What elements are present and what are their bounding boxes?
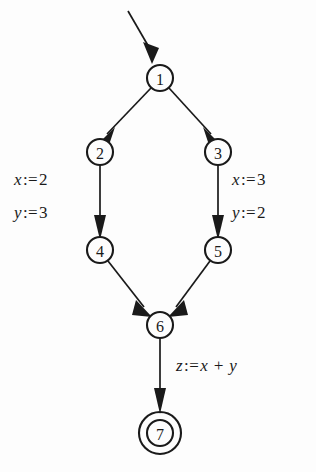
node-3-label: 3 [214, 145, 222, 162]
edge-3-to-5 [212, 165, 224, 240]
edge-entry-to-1 [128, 11, 159, 64]
node-7-label: 7 [156, 426, 164, 443]
assign-operator: := [240, 203, 257, 222]
edge-label-bottom-value: x + y [200, 356, 237, 375]
edge-label-left-line1: x:=2 [14, 170, 48, 190]
node-6[interactable]: 6 [147, 312, 173, 338]
edge-2-to-4 [94, 165, 106, 240]
edge-label-right-line1: x:=3 [232, 170, 266, 190]
edge-1-to-2 [98, 88, 151, 144]
edge-label-right-line2-value: 2 [257, 203, 266, 222]
edge-label-right-line1-value: 3 [257, 170, 266, 189]
node-4-label: 4 [96, 243, 104, 260]
assign-operator: := [22, 170, 39, 189]
assign-operator: := [183, 356, 200, 375]
assign-operator: := [22, 203, 39, 222]
edge-label-right-line2: y:=2 [232, 203, 266, 223]
control-flow-graph: 1 2 3 4 5 6 7 [0, 0, 316, 472]
edge-1-to-3 [169, 88, 220, 144]
edge-label-left-line2: y:=3 [14, 203, 48, 223]
edge-label-left-line1-var: x [14, 170, 22, 189]
node-1[interactable]: 1 [147, 65, 173, 91]
node-4[interactable]: 4 [87, 237, 113, 263]
assign-operator: := [240, 170, 257, 189]
node-1-label: 1 [156, 71, 164, 88]
node-6-label: 6 [156, 318, 164, 335]
edge-label-bottom-var: z [176, 356, 183, 375]
edge-label-right-line1-var: x [232, 170, 240, 189]
edge-label-left-line2-var: y [14, 203, 22, 222]
node-3[interactable]: 3 [205, 139, 231, 165]
edge-5-to-6 [168, 261, 210, 317]
diagram-canvas: 1 2 3 4 5 6 7 x:=2 [0, 0, 316, 472]
edge-label-left-line1-value: 2 [39, 170, 48, 189]
node-2-label: 2 [96, 145, 104, 162]
node-2[interactable]: 2 [87, 139, 113, 165]
edge-label-bottom: z:=x + y [176, 356, 237, 376]
node-5-label: 5 [214, 243, 222, 260]
node-7-terminal[interactable]: 7 [139, 412, 181, 454]
node-5[interactable]: 5 [205, 237, 231, 263]
edge-6-to-7 [154, 338, 166, 414]
edge-label-right-line2-var: y [232, 203, 240, 222]
edge-4-to-6 [108, 261, 152, 317]
edge-label-left-line2-value: 3 [39, 203, 48, 222]
